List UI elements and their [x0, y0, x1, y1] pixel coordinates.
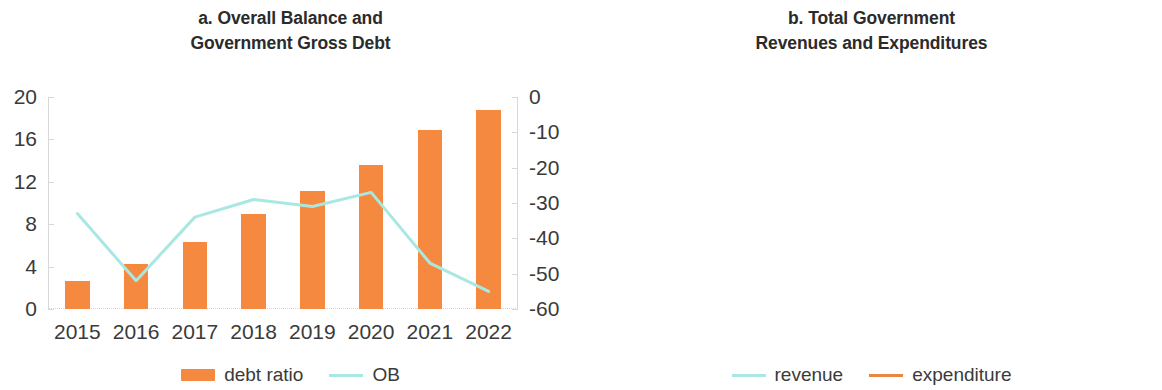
legend-item-expenditure: expenditure	[869, 364, 1011, 386]
panel-b-title: b. Total Government Revenues and Expendi…	[581, 6, 1162, 56]
axis-tick	[512, 97, 518, 98]
bar-debt-ratio	[241, 214, 266, 309]
axis-tick	[48, 182, 54, 183]
x-axis-tick-label: 2021	[401, 321, 460, 342]
panel-b-title-line2: Revenues and Expenditures	[581, 31, 1162, 56]
legend-label-expenditure: expenditure	[912, 364, 1011, 386]
panel-a-left-axis	[48, 97, 49, 309]
bar-debt-ratio	[359, 165, 384, 309]
axis-tick	[512, 309, 518, 310]
legend-label-ob: OB	[372, 364, 399, 386]
line-swatch-icon	[329, 374, 363, 377]
panel-b-title-line1: b. Total Government	[788, 8, 955, 28]
x-axis-tick-label: 2016	[107, 321, 166, 342]
axis-tick	[48, 97, 54, 98]
x-axis-tick-label: 2019	[283, 321, 342, 342]
panel-a-title-line1: a. Overall Balance and	[198, 8, 383, 28]
axis-tick	[48, 139, 54, 140]
y-axis-tick-label: 4	[25, 256, 37, 277]
axis-tick	[512, 238, 518, 239]
legend-item-ob: OB	[329, 364, 399, 386]
bar-debt-ratio	[65, 281, 90, 309]
y-axis-tick-label: -30	[529, 192, 559, 213]
bar-debt-ratio	[300, 191, 325, 309]
panel-a-legend: debt ratio OB	[0, 364, 581, 386]
y-axis-tick-label: -20	[529, 157, 559, 178]
x-axis-tick-label: 2015	[48, 321, 107, 342]
line-swatch-icon	[869, 374, 903, 377]
y-axis-tick-label: 0	[529, 86, 541, 107]
bar-swatch-icon	[181, 369, 215, 381]
legend-item-revenue: revenue	[732, 364, 844, 386]
panel-a: a. Overall Balance and Government Gross …	[0, 0, 581, 390]
panel-a-title: a. Overall Balance and Government Gross …	[0, 6, 581, 56]
axis-tick	[48, 309, 54, 310]
bar-debt-ratio	[124, 264, 149, 309]
x-axis-tick-label: 2018	[224, 321, 283, 342]
y-axis-tick-label: -10	[529, 121, 559, 142]
y-axis-tick-label: 0	[25, 298, 37, 319]
bar-debt-ratio	[183, 242, 208, 309]
y-axis-tick-label: -40	[529, 227, 559, 248]
axis-tick	[48, 267, 54, 268]
legend-item-debt-ratio: debt ratio	[181, 364, 303, 386]
legend-label-debt-ratio: debt ratio	[224, 364, 303, 386]
x-axis-tick-label: 2020	[342, 321, 401, 342]
panel-a-plot-area: 048121620 0-10-20-30-40-50-60 2015201620…	[48, 97, 518, 309]
panel-a-title-line2: Government Gross Debt	[0, 31, 581, 56]
axis-tick	[48, 224, 54, 225]
panel-b-legend: revenue expenditure	[581, 364, 1162, 386]
bar-debt-ratio	[418, 130, 443, 309]
legend-label-revenue: revenue	[775, 364, 844, 386]
axis-tick	[512, 203, 518, 204]
x-axis-tick-label: 2017	[166, 321, 225, 342]
y-axis-tick-label: 8	[25, 213, 37, 234]
y-axis-tick-label: 16	[14, 128, 37, 149]
axis-tick	[512, 274, 518, 275]
panel-b: b. Total Government Revenues and Expendi…	[581, 0, 1162, 390]
y-axis-tick-label: 12	[14, 171, 37, 192]
y-axis-tick-label: -60	[529, 298, 559, 319]
y-axis-tick-label: 20	[14, 86, 37, 107]
y-axis-tick-label: -50	[529, 263, 559, 284]
line-swatch-icon	[732, 374, 766, 377]
x-axis-tick-label: 2022	[459, 321, 518, 342]
figure-container: a. Overall Balance and Government Gross …	[0, 0, 1162, 390]
panel-a-ob-line	[48, 97, 518, 309]
bar-debt-ratio	[476, 110, 501, 309]
axis-tick	[512, 132, 518, 133]
panel-a-baseline	[48, 308, 518, 309]
axis-tick	[512, 168, 518, 169]
